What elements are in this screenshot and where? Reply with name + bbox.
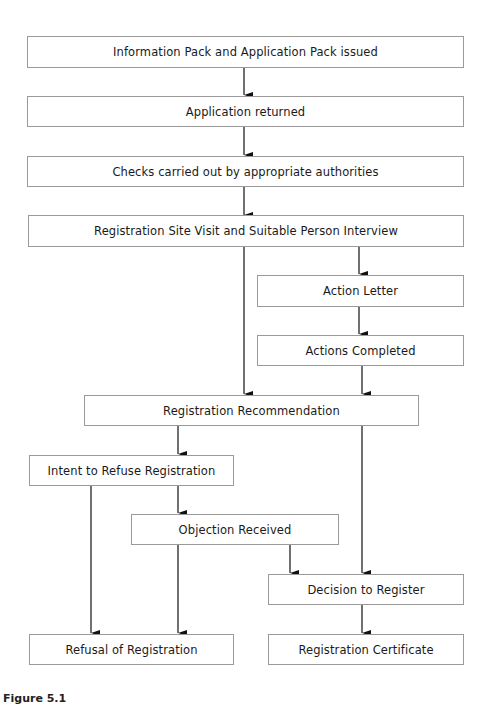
node-objection-received: Objection Received xyxy=(131,514,339,545)
figure-caption: Figure 5.1 xyxy=(3,692,66,705)
node-action-letter: Action Letter xyxy=(257,275,464,307)
node-application-returned: Application returned xyxy=(27,96,464,127)
node-label: Registration Recommendation xyxy=(163,404,340,418)
node-label: Application returned xyxy=(186,105,305,119)
node-label: Action Letter xyxy=(323,284,398,298)
node-registration-certificate: Registration Certificate xyxy=(268,634,464,665)
node-refusal-of-registration: Refusal of Registration xyxy=(29,634,234,665)
node-label: Registration Certificate xyxy=(298,643,433,657)
node-decision-to-register: Decision to Register xyxy=(268,574,464,605)
node-label: Refusal of Registration xyxy=(65,643,197,657)
node-info-pack-issued: Information Pack and Application Pack is… xyxy=(27,36,464,68)
node-checks-carried-out: Checks carried out by appropriate author… xyxy=(27,156,464,187)
node-actions-completed: Actions Completed xyxy=(257,335,464,366)
node-registration-recommendation: Registration Recommendation xyxy=(84,395,419,426)
node-label: Registration Site Visit and Suitable Per… xyxy=(94,224,398,238)
node-label: Actions Completed xyxy=(305,344,415,358)
node-site-visit-interview: Registration Site Visit and Suitable Per… xyxy=(28,215,464,247)
node-label: Checks carried out by appropriate author… xyxy=(112,165,378,179)
node-label: Intent to Refuse Registration xyxy=(48,464,216,478)
node-label: Information Pack and Application Pack is… xyxy=(113,45,378,59)
node-intent-to-refuse: Intent to Refuse Registration xyxy=(29,455,234,486)
node-label: Decision to Register xyxy=(307,583,424,597)
node-label: Objection Received xyxy=(179,523,292,537)
